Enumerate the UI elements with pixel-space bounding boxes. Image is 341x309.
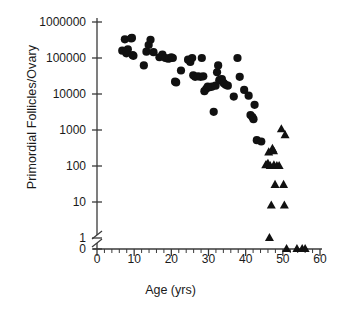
- data-point-circle: [250, 101, 258, 109]
- data-point-triangle: [271, 180, 280, 188]
- data-point-circle: [224, 82, 232, 90]
- data-point-circle: [188, 54, 196, 62]
- data-point-triangle: [265, 233, 274, 241]
- data-point-circle: [129, 52, 137, 60]
- data-point-triangle: [279, 180, 288, 188]
- data-point-circle: [213, 68, 221, 76]
- data-point-circle: [198, 54, 206, 62]
- data-point-circle: [177, 66, 185, 74]
- data-point-circle: [233, 54, 241, 62]
- data-point-circle: [146, 36, 154, 44]
- data-point-circle: [249, 115, 257, 123]
- data-point-circle: [128, 34, 136, 42]
- data-point-triangle: [267, 200, 276, 208]
- data-point-circle: [230, 92, 238, 100]
- data-point-triangle: [280, 200, 289, 208]
- data-point-circle: [199, 72, 207, 80]
- data-point-triangle: [282, 244, 291, 252]
- chart-root: Primordial Follicles/Ovary 1000000100000…: [0, 0, 341, 309]
- data-point-circle: [245, 92, 253, 100]
- data-point-circle: [257, 137, 265, 145]
- data-point-circle: [210, 108, 218, 116]
- data-point-circle: [169, 54, 177, 62]
- plot-area: [0, 0, 341, 309]
- data-point-circle: [140, 61, 148, 69]
- data-point-circle: [214, 61, 222, 69]
- data-point-circle: [172, 78, 180, 86]
- data-point-circle: [236, 73, 244, 81]
